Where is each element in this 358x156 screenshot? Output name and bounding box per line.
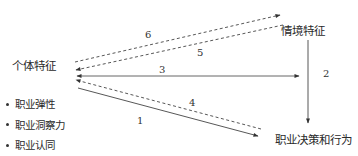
list-item: 职业认同	[6, 137, 65, 156]
edge-1-solid-arrow	[78, 88, 258, 136]
individual-traits-list: 职业弹性 职业洞察力 职业认同	[6, 96, 65, 156]
edge-label-4: 4	[189, 97, 195, 108]
bullet-icon	[6, 123, 9, 126]
bullet-icon	[6, 144, 9, 147]
edge-label-2: 2	[323, 68, 329, 79]
list-item: 职业洞察力	[6, 117, 65, 138]
list-item: 职业弹性	[6, 96, 65, 117]
bullet-icon	[6, 103, 9, 106]
edge-label-5: 5	[197, 47, 203, 58]
edge-label-1: 1	[137, 115, 143, 126]
node-career-decision-behavior: 职业决策和行为	[275, 131, 352, 147]
edge-4-dashed-arrow	[76, 80, 261, 129]
edge-label-3: 3	[159, 64, 165, 75]
edge-label-6: 6	[145, 29, 151, 40]
node-context-traits: 情境特征	[281, 22, 325, 38]
node-individual-traits: 个体特征	[12, 57, 56, 73]
edge-5-dashed-arrow	[76, 25, 283, 70]
edge-6-dashed-arrow	[75, 15, 280, 62]
